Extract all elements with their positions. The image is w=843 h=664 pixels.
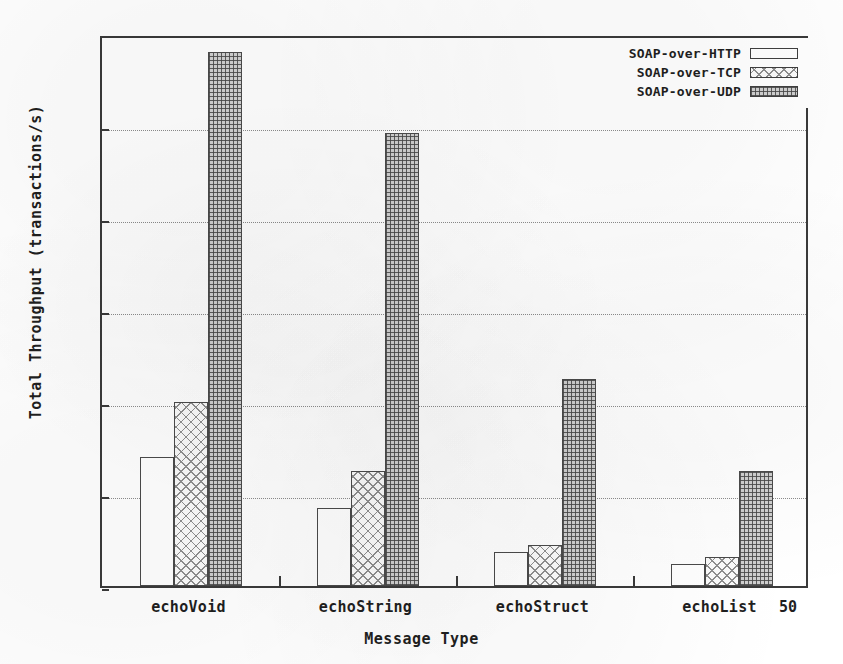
legend-item: SOAP-over-TCP [614,63,798,82]
y-tick-mark [102,405,109,407]
x-category-label: echoVoid [109,598,269,616]
y-tick-mark [102,497,109,499]
legend-swatch [750,48,798,59]
bar [317,508,351,586]
bar [494,552,528,587]
x-tick-mark [633,576,635,586]
bar [705,557,739,586]
x-axis-title: Message Type [0,630,843,648]
chart-legend: SOAP-over-HTTPSOAP-over-TCPSOAP-over-UDP [604,38,808,108]
legend-item: SOAP-over-HTTP [614,44,798,63]
bar [174,402,208,586]
bar [208,52,242,586]
y-tick-mark [102,129,109,131]
page-number-artifact: 50 [779,598,797,616]
legend-label: SOAP-over-TCP [637,65,741,80]
legend-swatch [750,86,798,97]
x-tick-mark [279,576,281,586]
x-tick-mark [456,576,458,586]
bar [671,564,705,586]
x-category-label: echoList [640,598,800,616]
bar [385,133,419,586]
legend-item: SOAP-over-UDP [614,82,798,101]
y-axis-title: Total Throughput (transactions/s) [27,0,45,542]
x-category-label: echoStruct [463,598,623,616]
plot-area: 024681012 [100,36,808,588]
y-tick-mark [102,221,109,223]
y-tick-mark [102,313,109,315]
bar [562,379,596,586]
bar [528,545,562,586]
legend-swatch [750,67,798,78]
legend-label: SOAP-over-UDP [637,84,741,99]
legend-label: SOAP-over-HTTP [629,46,741,61]
bar [140,457,174,586]
y-tick-mark [102,589,109,591]
x-category-label: echoString [286,598,446,616]
bar [351,471,385,586]
bar [739,471,773,586]
